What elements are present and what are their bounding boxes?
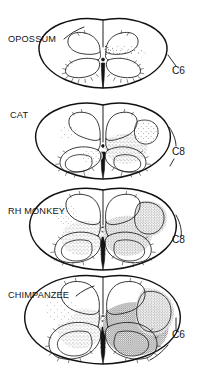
- panel-rh-monkey: RH MONKEY C8: [8, 188, 185, 270]
- panel-cat: CAT C8: [10, 103, 185, 179]
- level-label-opossum: C6: [172, 65, 185, 76]
- panel-opossum: OPOSSUM C6: [8, 19, 185, 88]
- figure-canvas: OPOSSUM C6: [0, 0, 206, 388]
- species-label-cat: CAT: [10, 110, 28, 120]
- level-label-rh-monkey: C8: [172, 234, 185, 245]
- central-canal-opossum: [102, 58, 105, 61]
- level-leader2-cat: [170, 159, 174, 166]
- level-label-cat: C8: [172, 146, 185, 157]
- species-label-chimpanzee: CHIMPANZEE: [8, 290, 69, 300]
- species-label-rh-monkey: RH MONKEY: [8, 206, 65, 216]
- species-label-opossum: OPOSSUM: [8, 34, 56, 44]
- spinal-cord-comparison-figure: OPOSSUM C6: [0, 0, 206, 388]
- central-canal-cat: [102, 145, 105, 148]
- panel-chimpanzee: CHIMPANZEE C6: [8, 275, 185, 364]
- level-label-chimpanzee: C6: [172, 329, 185, 340]
